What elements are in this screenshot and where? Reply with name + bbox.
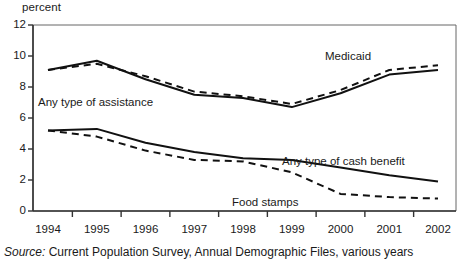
y-tick-label-6: 6 [2, 112, 26, 124]
y-tick-label-2: 2 [2, 174, 26, 186]
x-tick-label-1994: 1994 [25, 223, 71, 235]
y-tick-label-4: 4 [2, 143, 26, 155]
x-tick-label-1997: 1997 [171, 223, 217, 235]
plot-frame [33, 25, 456, 211]
y-tick-label-0: 0 [2, 205, 26, 217]
x-tick-label-1995: 1995 [74, 223, 120, 235]
annotation-any-type-of-cash-benefit: Any type of cash benefit [282, 155, 405, 167]
annotation-food-stamps: Food stamps [232, 196, 298, 208]
annotation-any-type-of-assistance: Any type of assistance [38, 96, 153, 108]
source-text: Current Population Survey, Annual Demogr… [45, 245, 413, 259]
x-tick-label-2002: 2002 [415, 223, 461, 235]
y-tick-label-12: 12 [2, 19, 26, 31]
y-tick-label-8: 8 [2, 81, 26, 93]
x-tick-label-2001: 2001 [366, 223, 412, 235]
chart-figure: percent 024681012 1994199519961997199819… [0, 0, 464, 263]
plot-border [33, 25, 456, 211]
y-axis-unit-label: percent [22, 1, 61, 13]
y-tick-label-10: 10 [2, 50, 26, 62]
x-tick-label-2000: 2000 [318, 223, 364, 235]
x-tick-label-1999: 1999 [269, 223, 315, 235]
series-lines [48, 61, 438, 199]
annotation-medicaid: Medicaid [325, 50, 371, 62]
source-note: Source: Current Population Survey, Annua… [4, 245, 413, 259]
source-label: Source: [4, 245, 45, 259]
x-tick-label-1998: 1998 [220, 223, 266, 235]
x-tick-label-1996: 1996 [123, 223, 169, 235]
x-tick-marks [72, 211, 413, 217]
